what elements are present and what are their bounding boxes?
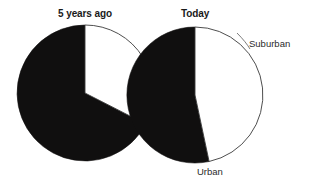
pie-chart-figure: 5 years ago Today Suburban Urban: [0, 0, 311, 190]
pie-label-urban: Urban: [197, 166, 223, 177]
pie-charts-svg: [0, 0, 311, 190]
pie-label-suburban: Suburban: [249, 38, 290, 49]
pie-right-today: [127, 27, 263, 163]
